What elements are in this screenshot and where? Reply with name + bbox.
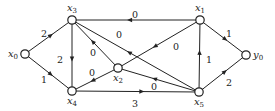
edge-line: [72, 91, 199, 92]
node-label: x4: [67, 95, 78, 108]
node-x4: x4: [67, 87, 78, 108]
node-circle-icon: [68, 16, 76, 24]
edge-line: [118, 68, 199, 92]
edge-weight-label: 1: [226, 28, 232, 39]
node-label: y0: [252, 49, 263, 62]
edge-x0-x4: 1: [25, 54, 72, 91]
edge-x4-x5: 3: [72, 89, 199, 108]
edge-line: [199, 20, 200, 92]
edge-x0-x3: 2: [25, 20, 72, 54]
edge-x1-x3: 0: [72, 9, 200, 23]
node-circle-icon: [114, 64, 122, 72]
edge-x2-x3: 0: [72, 20, 118, 68]
edge-weight-label: 2: [226, 77, 232, 88]
node-circle-icon: [195, 88, 203, 96]
node-circle-icon: [68, 87, 76, 95]
edge-weight-label: 2: [57, 54, 63, 65]
edge-weight-label: 2: [41, 28, 47, 39]
edge-line: [72, 20, 118, 68]
graph-diagram: 2120000003112 x0x3x4x2x1x5y0: [0, 0, 275, 111]
edge-weight-label: 0: [173, 41, 179, 52]
edge-weight-label: 1: [41, 74, 47, 85]
edge-weight-label: 1: [206, 54, 212, 65]
edge-x1-y0: 1: [200, 20, 246, 55]
node-y0: y0: [242, 49, 263, 62]
node-x3: x3: [67, 2, 77, 24]
edge-line: [200, 20, 246, 55]
node-x5: x5: [194, 88, 204, 109]
edge-weight-label: 0: [151, 81, 157, 92]
node-circle-icon: [242, 51, 250, 59]
edge-x2-x4: 0: [72, 67, 118, 92]
edge-weight-label: 0: [89, 67, 95, 78]
edge-line: [118, 20, 200, 68]
edge-weight-label: 0: [116, 29, 122, 40]
node-label: x5: [194, 96, 204, 109]
arrowhead-icon: [139, 89, 144, 93]
edge-line: [25, 20, 72, 54]
edges-layer: 2120000003112: [25, 9, 246, 109]
edge-weight-label: 0: [132, 9, 138, 20]
edge-x1-x2: 0: [118, 20, 200, 68]
node-circle-icon: [196, 16, 204, 24]
edge-x5-x2: 0: [118, 68, 199, 92]
node-x0: x0: [8, 48, 29, 61]
edge-line: [25, 54, 72, 91]
arrowhead-icon: [48, 34, 53, 39]
node-label: x3: [67, 2, 77, 15]
node-x2: x2: [113, 64, 123, 85]
node-label: x1: [195, 2, 205, 15]
edge-x5-x1: 1: [197, 20, 212, 92]
arrowhead-icon: [70, 57, 74, 62]
edge-weight-label: 3: [132, 98, 138, 109]
node-circle-icon: [21, 50, 29, 58]
node-label: x0: [8, 48, 18, 61]
edge-x3-x4: 2: [57, 20, 74, 91]
node-x1: x1: [195, 2, 205, 24]
edge-weight-label: 0: [90, 47, 96, 58]
node-label: x2: [113, 72, 123, 85]
arrowhead-icon: [197, 50, 201, 55]
